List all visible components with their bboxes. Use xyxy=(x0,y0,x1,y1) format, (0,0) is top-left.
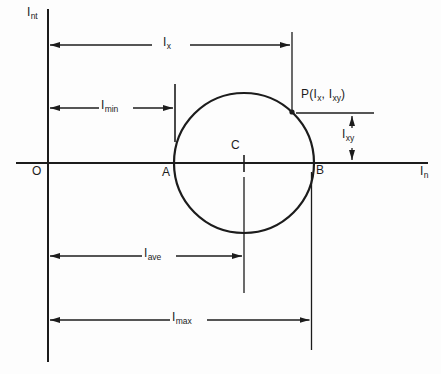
diagram-geometry xyxy=(0,0,441,374)
iave-dim-label: Iave xyxy=(144,247,161,261)
horizontal-axis-label-sub: n xyxy=(424,170,429,180)
center-c-label: C xyxy=(231,139,240,152)
imax-dim-label: Imax xyxy=(172,311,192,325)
point-p-label: P(Ix, Ixy) xyxy=(301,88,345,102)
vertical-axis-label-sub: nt xyxy=(31,11,38,21)
point-b-label: B xyxy=(316,164,324,177)
ix-dim-label: Ix xyxy=(163,36,171,50)
ixy-dim-label: Ixy xyxy=(342,128,354,142)
mohr-circle-figure: Int In O A B C P(Ix, Ixy) Ix Imin Iave I… xyxy=(0,0,441,374)
point-a-label: A xyxy=(162,166,170,179)
origin-label: O xyxy=(32,165,42,178)
imin-dim-label: Imin xyxy=(101,99,118,113)
horizontal-axis-label: In xyxy=(420,165,428,179)
p-point-dot xyxy=(289,109,294,114)
vertical-axis-label: Int xyxy=(27,6,38,20)
